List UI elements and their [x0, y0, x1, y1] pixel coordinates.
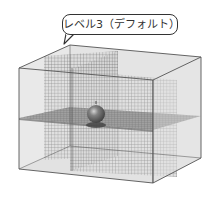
callout-tail: [64, 34, 74, 44]
level-callout-label: レベル3（デフォルト）: [63, 18, 180, 31]
level-callout: レベル3（デフォルト）: [62, 14, 178, 35]
